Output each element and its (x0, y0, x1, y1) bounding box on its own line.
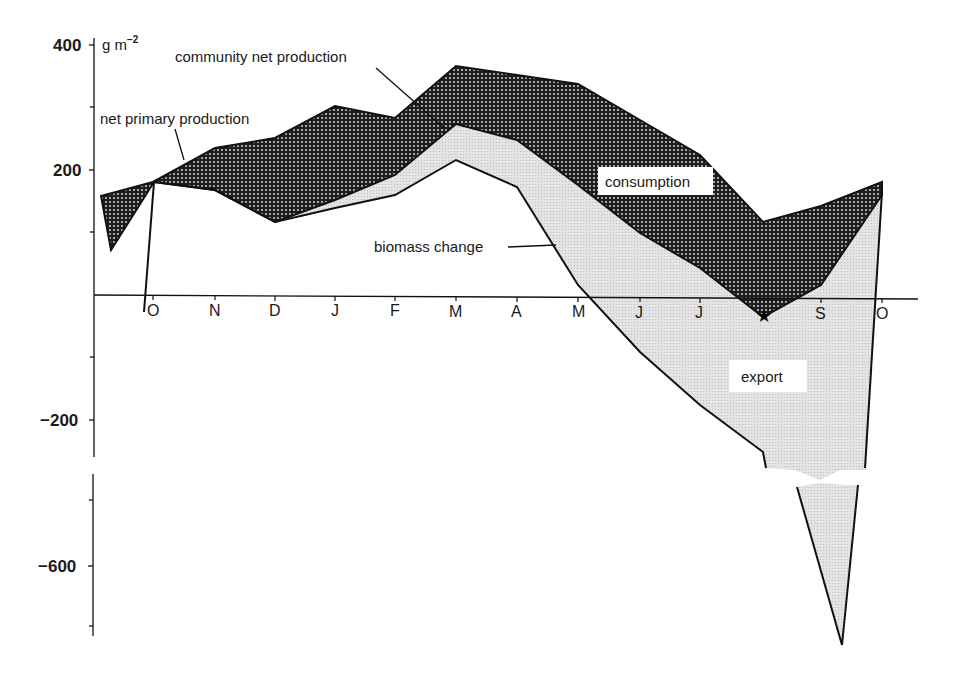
label-biomass-change: biomass change (374, 238, 483, 255)
month-label: J (331, 302, 339, 319)
month-label: M (572, 303, 585, 320)
y-label-200: 200 (53, 161, 81, 180)
label-consumption: consumption (605, 173, 690, 190)
label-export: export (741, 368, 784, 385)
export-area-lower (797, 483, 858, 645)
month-label: J (695, 304, 703, 321)
month-label: A (511, 303, 522, 320)
month-label: S (815, 305, 826, 322)
biomass-leader-line (508, 245, 556, 247)
chart: ★ 400 200 −200 −600 g m−2 O (0, 0, 954, 681)
label-net-primary-production: net primary production (100, 110, 249, 127)
y-unit-label: g m−2 (102, 34, 139, 53)
y-label-neg200: −200 (40, 411, 78, 430)
y-label-neg600: −600 (38, 557, 76, 576)
star-marker: ★ (756, 306, 772, 326)
month-label: F (390, 302, 400, 319)
month-label: D (269, 302, 281, 319)
y-label-400: 400 (53, 36, 81, 55)
month-label: J (635, 304, 643, 321)
month-label: N (209, 302, 221, 319)
month-label: O (876, 305, 888, 322)
month-label: O (147, 302, 159, 319)
label-community-net-production: community net production (175, 48, 347, 65)
month-label: M (449, 303, 462, 320)
npp-leader-line (175, 129, 184, 160)
